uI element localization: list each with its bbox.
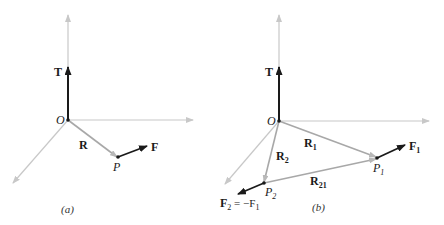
origin-label: O xyxy=(267,114,276,128)
position-label: R xyxy=(79,138,88,152)
force-vector xyxy=(118,146,147,157)
origin-point xyxy=(66,118,70,122)
f1-vector xyxy=(377,145,405,158)
panel-a: T R F O P (a) xyxy=(13,15,193,216)
p1-label: P1 xyxy=(372,161,384,177)
x-axis xyxy=(13,120,68,183)
f2-vector xyxy=(238,183,264,194)
f1-label: F1 xyxy=(409,139,420,155)
r1-vector xyxy=(279,121,376,157)
caption-a: (a) xyxy=(61,203,74,216)
panel-b: T R1 R2 R21 F1 F2 = −F1 O P1 P2 (b) xyxy=(220,15,429,214)
p2-label: P2 xyxy=(264,185,276,201)
origin-point xyxy=(277,119,281,123)
r21-label: R21 xyxy=(310,174,327,190)
f2-label: F2 = −F1 xyxy=(220,196,259,212)
r1-label: R1 xyxy=(304,136,317,152)
torque-diagram: T R F O P (a) T R1 R2 R21 F1 xyxy=(0,0,444,225)
point-p1 xyxy=(375,156,379,160)
position-vector xyxy=(68,120,117,157)
r2-label: R2 xyxy=(276,149,289,165)
point-p xyxy=(116,155,120,159)
origin-label: O xyxy=(56,113,65,127)
torque-label: T xyxy=(265,65,273,79)
caption-b: (b) xyxy=(312,201,325,214)
force-label: F xyxy=(151,140,158,154)
torque-label: T xyxy=(54,65,62,79)
point-p-label: P xyxy=(112,160,121,174)
